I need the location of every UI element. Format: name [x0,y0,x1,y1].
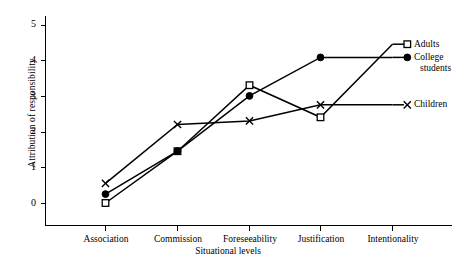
data-point-children-intentionality [404,101,411,108]
data-point-college-commission [174,148,181,155]
legend-label-adults: Adults [414,39,439,50]
x-tick-label-intentionality: Intentionality [346,234,440,244]
series-line-college-students [106,57,393,194]
series-markers-adults [102,41,410,206]
series-markers-college-students [102,54,411,198]
data-point-adults-association [102,200,109,207]
y-axis-title: Attribution of responsibility [27,33,37,193]
y-tick-label-5: 5 [20,19,36,29]
data-point-college-justification [317,54,324,61]
data-point-adults-justification [317,114,324,121]
y-axis-ticks [41,25,45,204]
legend-label-college-students: College students [414,52,451,74]
legend-label-college-line2: students [414,63,451,74]
data-point-college-foreseeability [246,93,253,100]
y-tick-label-0: 0 [20,198,36,208]
chart-plot-area [0,0,456,266]
data-point-adults-intentionality [404,41,411,48]
data-point-adults-foreseeability [246,82,253,89]
series-line-adults [106,44,393,203]
legend-label-children: Children [414,99,447,110]
chart-figure: 0 1 2 3 4 5 Association Commission Fores… [0,0,456,266]
legend-label-college-line1: College [414,52,444,62]
data-point-college-association [102,191,109,198]
data-point-children-association [102,180,109,187]
data-point-college-intentionality [404,54,411,61]
x-axis-title: Situational levels [0,246,456,256]
series-markers-children [102,101,411,187]
